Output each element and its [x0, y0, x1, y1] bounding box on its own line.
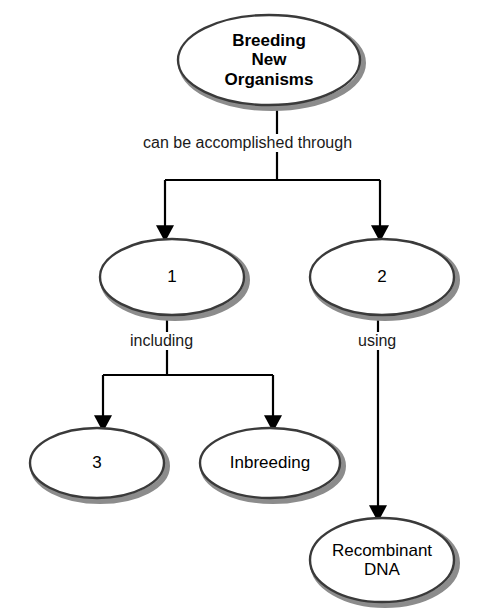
ellipse-group — [30, 15, 454, 602]
node-root-shape[interactable] — [178, 15, 360, 105]
diagram-canvas — [0, 0, 481, 611]
node-2-shape[interactable] — [310, 239, 454, 315]
concept-map-diagram: Breeding New Organisms 1 2 3 Inbreeding … — [0, 0, 481, 611]
node-inbreeding-shape[interactable] — [200, 428, 340, 498]
edge-label-including: including — [127, 332, 196, 350]
node-3-shape[interactable] — [30, 428, 164, 498]
edge-label-using: using — [355, 332, 399, 350]
node-recombinant-shape[interactable] — [310, 518, 454, 602]
node-1-shape[interactable] — [100, 239, 244, 315]
edge-label-can-be-accomplished-through: can be accomplished through — [141, 134, 354, 152]
